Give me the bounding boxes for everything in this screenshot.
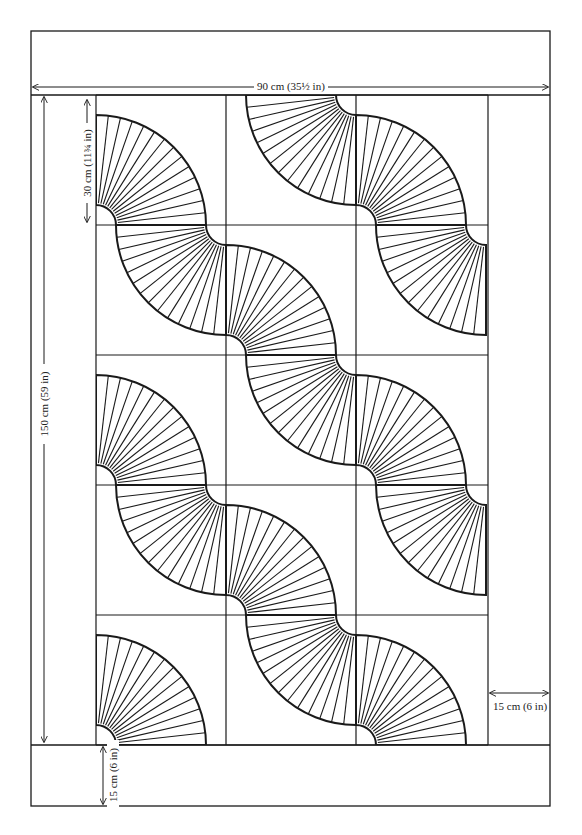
fan-block	[376, 225, 486, 335]
fan-block	[356, 115, 466, 225]
fan-block	[246, 615, 356, 725]
fan-block	[96, 375, 206, 485]
fan-block	[246, 95, 356, 205]
fan-block	[356, 635, 466, 745]
fan-block	[226, 245, 336, 355]
fan-block	[226, 505, 336, 615]
fan-blocks	[96, 95, 486, 745]
width-dimension-label: 90 cm (35½ in)	[254, 80, 328, 92]
fan-block	[376, 485, 486, 595]
fan-block	[96, 635, 206, 745]
fan-block	[116, 485, 226, 595]
fan-block	[116, 225, 226, 335]
bottom-border-label: 15 cm (6 in)	[107, 740, 119, 810]
fan-block	[246, 355, 356, 465]
fan-block	[356, 375, 466, 485]
fan-block	[96, 115, 206, 225]
block-size-label: 30 cm (11¾ in)	[81, 123, 93, 203]
height-dimension-label: 150 cm (59 in)	[38, 364, 50, 444]
side-border-label: 15 cm (6 in)	[493, 700, 547, 712]
